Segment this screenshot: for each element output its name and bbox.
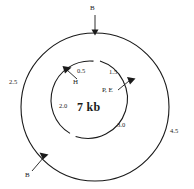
site-label-pe: P, E xyxy=(102,87,113,94)
tick-label-2-0: 2.0 xyxy=(59,103,67,110)
site-label-b-top: B xyxy=(90,5,95,12)
site-leader-b-bottom xyxy=(32,157,44,171)
site-label-h: H xyxy=(73,79,78,86)
tick-label-1-5: 1.5 xyxy=(109,69,117,76)
map-drawing xyxy=(0,0,194,189)
site-marker-pe-icon xyxy=(127,77,136,85)
plasmid-size-label: 7 kb xyxy=(77,101,101,113)
site-label-b-bottom: B xyxy=(25,172,30,179)
tick-label-0-5: 0.5 xyxy=(77,68,85,75)
tick-label-4-5: 4.5 xyxy=(170,128,178,135)
site-marker-b-bottom-icon xyxy=(40,153,49,160)
inner-circle-arc-left xyxy=(51,61,93,133)
tick-label-2-5: 2.5 xyxy=(9,79,17,86)
circular-restriction-map: B B H P, E 0.5 1.5 2.0 3.0 2.5 4.5 7 kb xyxy=(0,0,194,189)
tick-label-3-0: 3.0 xyxy=(117,122,125,129)
